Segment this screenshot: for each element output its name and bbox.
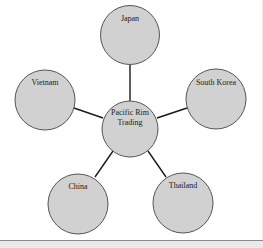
connector-south-korea (157, 108, 187, 118)
bottom-bar (0, 240, 263, 248)
node-label-vietnam: Vietnam (31, 78, 58, 88)
connector-china (95, 151, 113, 177)
diagram-canvas: Japan South Korea Thailand China Vietnam… (0, 0, 263, 240)
node-label-hub: Pacific Rim Trading (105, 108, 155, 128)
node-label-japan: Japan (121, 14, 139, 24)
node-label-china: China (68, 182, 87, 192)
node-label-thailand: Thailand (169, 181, 197, 191)
hub-label-line2: Trading (105, 118, 155, 128)
hub-label-line1: Pacific Rim (105, 108, 155, 118)
connector-thailand (148, 151, 166, 177)
node-label-south-korea: South Korea (196, 78, 236, 88)
connector-vietnam (74, 108, 103, 118)
